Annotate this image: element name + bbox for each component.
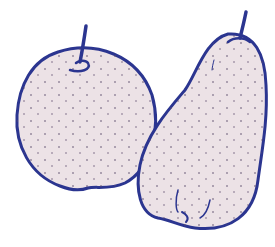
tall-pear-stem — [240, 12, 246, 38]
tall-pear — [138, 12, 266, 229]
round-pear — [17, 26, 156, 190]
pears-illustration — [0, 0, 275, 247]
